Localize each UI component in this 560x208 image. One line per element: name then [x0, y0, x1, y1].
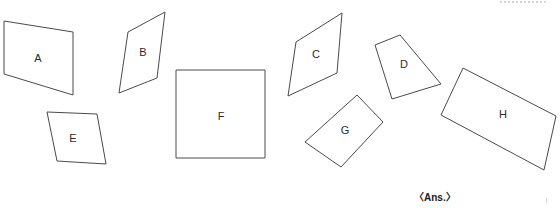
shape-g-label: G [341, 124, 350, 136]
shape-f-label: F [218, 110, 225, 122]
shape-e-label: E [69, 132, 76, 144]
shape-c-label: C [312, 48, 320, 60]
shape-collection: A B C D E F G H [0, 0, 560, 208]
scan-dotted-artifact [500, 1, 546, 6]
answer-note: 〈Ans.〉 [414, 189, 456, 204]
shape-b-label: B [139, 46, 146, 58]
scan-corner-tick [546, 198, 550, 203]
shape-d-label: D [400, 58, 408, 70]
shape-a-label: A [34, 52, 42, 64]
shape-h-label: H [499, 108, 507, 120]
geometry-worksheet-canvas: A B C D E F G H 〈Ans.〉 [0, 0, 560, 208]
shape-d-outline[interactable] [375, 35, 441, 99]
